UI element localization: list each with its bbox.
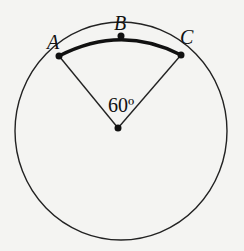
point-c bbox=[178, 52, 185, 59]
arc-abc bbox=[59, 40, 181, 56]
label-c: C bbox=[180, 26, 194, 48]
point-a bbox=[56, 53, 63, 60]
radius-c bbox=[118, 55, 181, 128]
diagram: A B C 60º bbox=[0, 0, 244, 251]
circle-diagram: A B C 60º bbox=[0, 0, 244, 251]
label-b: B bbox=[114, 12, 126, 34]
label-a: A bbox=[45, 31, 60, 53]
angle-label: 60º bbox=[108, 94, 134, 116]
circle bbox=[15, 22, 227, 240]
radius-a bbox=[59, 56, 118, 128]
center-point bbox=[115, 125, 122, 132]
